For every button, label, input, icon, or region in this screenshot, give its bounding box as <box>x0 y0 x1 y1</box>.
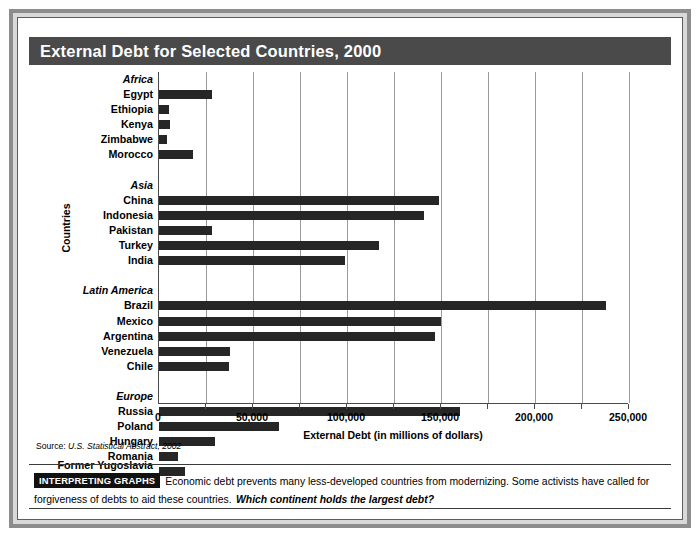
x-tick <box>581 404 582 409</box>
category-label: Egypt <box>123 87 153 102</box>
group-label: Europe <box>116 389 153 404</box>
x-tick-label: 250,000 <box>609 411 647 423</box>
bar-row <box>159 223 628 238</box>
bar-row <box>159 344 628 359</box>
source-note: Source: U.S. Statistical Abstract, 2002 <box>36 441 181 451</box>
bar <box>159 150 193 159</box>
category-label: Mexico <box>117 314 153 329</box>
category-label-row: Ethiopia <box>29 102 158 117</box>
group-label: Latin America <box>83 283 153 298</box>
empty-row <box>159 389 628 404</box>
bar <box>159 120 170 129</box>
x-tick <box>628 404 629 409</box>
category-label-row: China <box>29 193 158 208</box>
empty-row <box>159 374 628 389</box>
category-label: Pakistan <box>109 223 153 238</box>
category-label: Chile <box>127 359 153 374</box>
bar <box>159 317 441 326</box>
interpreting-graphs-badge: INTERPRETING GRAPHS <box>34 473 160 488</box>
category-label: China <box>123 193 153 208</box>
bar <box>159 226 212 235</box>
group-label: Africa <box>123 72 153 87</box>
category-label-row: Pakistan <box>29 223 158 238</box>
bar <box>159 135 167 144</box>
bar <box>159 256 345 265</box>
spacer-row <box>29 163 158 178</box>
group-label-row: Europe <box>29 389 158 404</box>
bar <box>159 347 230 356</box>
bar-row <box>159 253 628 268</box>
category-label: Argentina <box>103 329 153 344</box>
category-label-row: Brazil <box>29 298 158 313</box>
bar <box>159 211 424 220</box>
x-tick-label: 50,000 <box>236 411 268 423</box>
x-tick <box>534 404 535 409</box>
category-label-row: Turkey <box>29 238 158 253</box>
category-label: Ethiopia <box>111 102 153 117</box>
x-tick-label: 200,000 <box>515 411 553 423</box>
category-label: Zimbabwe <box>101 132 153 147</box>
bar-row <box>159 449 628 464</box>
category-label-row: Kenya <box>29 117 158 132</box>
figure-page: External Debt for Selected Countries, 20… <box>0 0 700 537</box>
x-axis-title: External Debt (in millions of dollars) <box>158 429 628 441</box>
gridline <box>629 72 630 403</box>
x-tick-label: 150,000 <box>421 411 459 423</box>
bar-row <box>159 359 628 374</box>
chart-title: External Debt for Selected Countries, 20… <box>29 42 381 61</box>
bar-row <box>159 208 628 223</box>
x-tick <box>205 404 206 409</box>
category-label: Brazil <box>124 298 153 313</box>
source-label: Source: <box>36 441 66 451</box>
bar-row <box>159 117 628 132</box>
category-label-row: Egypt <box>29 87 158 102</box>
group-label-row: Latin America <box>29 283 158 298</box>
bar-row <box>159 314 628 329</box>
category-label: India <box>128 253 153 268</box>
category-label: Poland <box>117 419 153 434</box>
bar-row <box>159 147 628 162</box>
category-label: Venezuela <box>101 344 153 359</box>
x-tick <box>252 404 253 409</box>
chart-title-bar: External Debt for Selected Countries, 20… <box>29 37 671 65</box>
spacer-row <box>29 268 158 283</box>
category-label-row: Russia <box>29 404 158 419</box>
x-tick-label: 100,000 <box>327 411 365 423</box>
category-label-row: Chile <box>29 359 158 374</box>
category-label: Russia <box>118 404 153 419</box>
bar-row <box>159 298 628 313</box>
group-label-row: Asia <box>29 178 158 193</box>
bar-row <box>159 193 628 208</box>
bar-row <box>159 132 628 147</box>
group-label: Asia <box>130 178 153 193</box>
empty-row <box>159 178 628 193</box>
category-label: Kenya <box>121 117 153 132</box>
x-tick <box>346 404 347 409</box>
group-label-row: Africa <box>29 72 158 87</box>
empty-row <box>159 268 628 283</box>
interpreting-graphs-box: INTERPRETING GRAPHSEconomic debt prevent… <box>29 464 671 509</box>
plot-region <box>158 72 628 404</box>
bar <box>159 332 435 341</box>
x-tick <box>393 404 394 409</box>
bar <box>159 105 169 114</box>
x-tick-label: 0 <box>155 411 161 423</box>
category-label-row: India <box>29 253 158 268</box>
x-axis-tick-labels: 050,000100,000150,000200,000250,000 <box>158 411 628 427</box>
empty-row <box>159 72 628 87</box>
bar-row <box>159 329 628 344</box>
category-label-row: Indonesia <box>29 208 158 223</box>
category-label: Morocco <box>108 147 153 162</box>
bar <box>159 362 229 371</box>
category-label-row: Zimbabwe <box>29 132 158 147</box>
bar-row <box>159 238 628 253</box>
bar-row <box>159 87 628 102</box>
bar <box>159 241 379 250</box>
category-label-row: Argentina <box>29 329 158 344</box>
category-label-row: Morocco <box>29 147 158 162</box>
category-label-row: Mexico <box>29 314 158 329</box>
source-title: U.S. Statistical Abstract, 2002 <box>68 441 181 451</box>
footer-question: Which continent holds the largest debt? <box>236 494 434 505</box>
x-tick <box>299 404 300 409</box>
bar-row <box>159 102 628 117</box>
